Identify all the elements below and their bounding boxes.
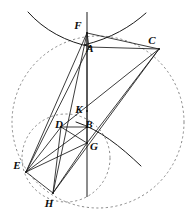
segment-D-E xyxy=(26,127,61,172)
point-label-K: K xyxy=(75,104,82,115)
vertex-point-G xyxy=(86,142,88,144)
upper-left-conic-arc xyxy=(28,12,92,47)
vertex-dots-group xyxy=(25,32,160,194)
upper-right-conic-arc xyxy=(84,13,146,45)
point-label-F: F xyxy=(74,20,81,31)
vertex-point-F xyxy=(86,32,88,34)
dashed-circles-group xyxy=(12,36,184,208)
segments-group xyxy=(26,33,159,193)
vertex-point-K xyxy=(86,110,88,112)
point-label-D: D xyxy=(55,119,63,130)
point-label-H: H xyxy=(45,198,54,209)
point-label-C: C xyxy=(148,35,155,46)
large-dashed-circle xyxy=(12,36,184,208)
geometry-canvas xyxy=(0,0,194,222)
vertex-point-C xyxy=(158,48,160,50)
point-label-B: B xyxy=(85,119,92,130)
geometry-figure: FACKDBGEH xyxy=(0,0,194,222)
segment-E-H xyxy=(26,172,53,193)
point-label-A: A xyxy=(86,43,93,54)
segment-A-C xyxy=(89,47,159,49)
point-label-G: G xyxy=(90,141,98,152)
vertex-point-E xyxy=(25,171,27,173)
point-label-E: E xyxy=(13,160,20,171)
vertex-point-H xyxy=(52,192,54,194)
